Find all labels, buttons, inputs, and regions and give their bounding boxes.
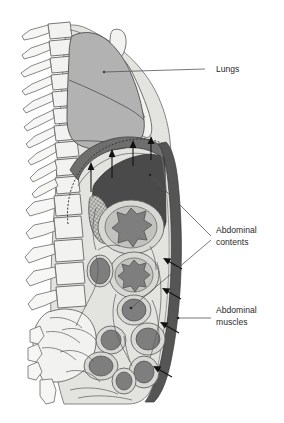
label-abdominal-muscles-line1: Abdominal — [216, 305, 257, 315]
leader-dot-gut — [130, 307, 133, 310]
gut-loop-4 — [117, 295, 151, 325]
label-abdominal-contents-line2: contents — [216, 237, 249, 247]
gut-loop-2 — [109, 252, 159, 298]
leader-dot-liver — [149, 174, 152, 177]
gut-loop-9 — [112, 368, 136, 394]
gut-loop-3 — [87, 255, 113, 287]
leader-dot-lungs — [103, 71, 106, 74]
gut-loop-6 — [96, 326, 126, 354]
anatomy-diagram: Lungs Abdominal contents Abdominal muscl… — [0, 0, 284, 423]
label-abdominal-contents-line1: Abdominal — [216, 225, 257, 235]
gut-loop-5 — [131, 323, 165, 355]
label-lungs: Lungs — [216, 64, 239, 74]
leader-dot-wall — [177, 317, 180, 320]
label-abdominal-muscles-line2: muscles — [216, 317, 248, 327]
lumbar-vertebrae — [54, 194, 86, 308]
